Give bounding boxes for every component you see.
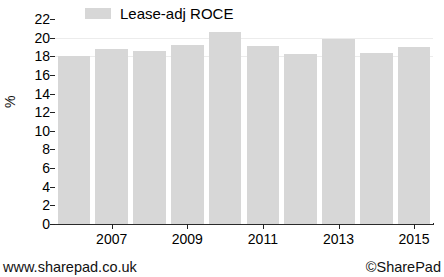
x-tick-label: 2009 bbox=[172, 231, 203, 247]
legend-swatch-lease-adj-roce bbox=[85, 8, 111, 19]
x-tick-mark bbox=[263, 224, 264, 229]
y-tick-mark bbox=[50, 224, 55, 225]
y-tick-mark bbox=[50, 149, 55, 150]
bar bbox=[133, 51, 166, 224]
y-tick-label: 20 bbox=[24, 31, 50, 45]
chart-legend: Lease-adj ROCE bbox=[85, 5, 233, 22]
y-tick-label: 12 bbox=[24, 105, 50, 119]
x-tick-label: 2011 bbox=[248, 231, 278, 247]
y-tick-label: 14 bbox=[24, 87, 50, 101]
y-tick-mark bbox=[50, 187, 55, 188]
x-tick-label: 2013 bbox=[323, 231, 354, 247]
y-tick-label: 0 bbox=[24, 217, 50, 231]
y-axis-tick-labels: 0246810121416182022 bbox=[22, 0, 50, 277]
y-tick-label: 6 bbox=[24, 161, 50, 175]
x-tick-mark bbox=[112, 224, 113, 229]
y-tick-mark bbox=[50, 94, 55, 95]
y-tick-mark bbox=[50, 56, 55, 57]
plot-area bbox=[55, 19, 433, 224]
y-tick-label: 10 bbox=[24, 124, 50, 138]
y-tick-mark bbox=[50, 112, 55, 113]
x-tick-mark bbox=[339, 224, 340, 229]
y-tick-label: 22 bbox=[24, 12, 50, 26]
x-tick-mark bbox=[187, 224, 188, 229]
x-tick-label: 2015 bbox=[399, 231, 430, 247]
y-tick-label: 16 bbox=[24, 68, 50, 82]
bar bbox=[398, 47, 431, 224]
bar bbox=[322, 39, 355, 224]
gridline bbox=[55, 38, 433, 39]
bar bbox=[58, 56, 91, 224]
bar bbox=[360, 53, 393, 224]
y-tick-label: 4 bbox=[24, 180, 50, 194]
y-tick-mark bbox=[50, 131, 55, 132]
x-tick-label: 2007 bbox=[96, 231, 127, 247]
y-tick-mark bbox=[50, 75, 55, 76]
y-tick-label: 8 bbox=[24, 142, 50, 156]
y-tick-label: 18 bbox=[24, 49, 50, 63]
bar bbox=[95, 49, 128, 224]
bar bbox=[247, 46, 280, 224]
y-tick-mark bbox=[50, 168, 55, 169]
x-tick-mark bbox=[414, 224, 415, 229]
legend-label-lease-adj-roce: Lease-adj ROCE bbox=[120, 5, 233, 22]
chart-container: % 0246810121416182022 200720092011201320… bbox=[0, 0, 444, 277]
y-axis-title: % bbox=[2, 96, 18, 108]
bar bbox=[171, 45, 204, 224]
y-tick-mark bbox=[50, 38, 55, 39]
footer-copyright: ©SharePad bbox=[366, 259, 441, 275]
y-tick-mark bbox=[50, 205, 55, 206]
y-tick-label: 2 bbox=[24, 198, 50, 212]
footer-website: www.sharepad.co.uk bbox=[3, 259, 137, 275]
bar bbox=[209, 32, 242, 224]
y-tick-mark bbox=[50, 19, 55, 20]
bar bbox=[284, 54, 317, 224]
